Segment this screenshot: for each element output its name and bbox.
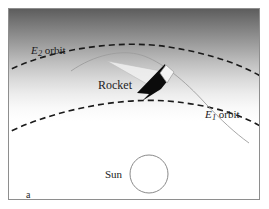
outer-orbit-suffix: orbit xyxy=(42,44,66,56)
inner-orbit-label: E1 orbit xyxy=(205,109,240,123)
orbit-diagram-svg xyxy=(9,9,259,199)
transfer-trajectory-path xyxy=(71,53,249,143)
rocket-label: Rocket xyxy=(98,79,132,91)
inner-orbit-symbol: E xyxy=(205,108,212,120)
sun-label: Sun xyxy=(105,169,122,180)
outer-orbit-symbol: E xyxy=(31,44,38,56)
figure-root: E2 orbit E1 orbit Rocket Sun a xyxy=(0,0,269,209)
figure-panel-frame: E2 orbit E1 orbit Rocket Sun a xyxy=(8,8,260,200)
outer-orbit-label: E2 orbit xyxy=(31,45,66,59)
panel-label: a xyxy=(26,190,30,200)
inner-orbit-suffix: orbit xyxy=(216,108,240,120)
sun-circle xyxy=(130,155,168,193)
